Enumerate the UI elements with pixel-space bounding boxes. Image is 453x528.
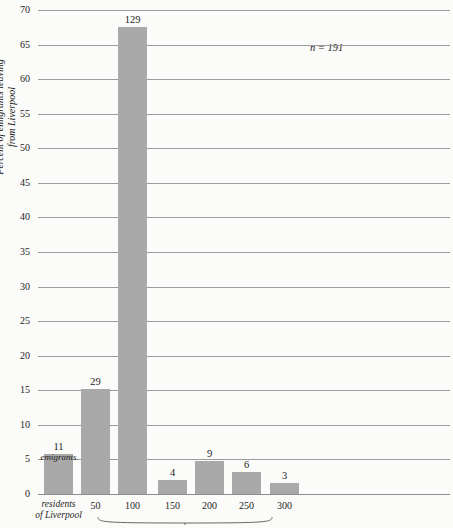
bar-value-label: 29 bbox=[69, 376, 122, 387]
bar-value-label: 6 bbox=[220, 459, 273, 470]
x-tick-label-100: 100 bbox=[111, 500, 155, 511]
bar-series: 11emigrants291294963 bbox=[38, 10, 450, 494]
y-tick-label: 50 bbox=[2, 143, 30, 153]
gridline-0 bbox=[38, 494, 450, 495]
y-tick-label: 60 bbox=[2, 74, 30, 84]
y-tick-label: 40 bbox=[2, 212, 30, 222]
x-axis-category-label: residents of Liverpool bbox=[19, 499, 99, 521]
bar bbox=[270, 483, 299, 494]
bar-value-label: 11 bbox=[32, 441, 85, 452]
bar-value-label: 9 bbox=[183, 448, 236, 459]
x-category-line2: of Liverpool bbox=[35, 510, 82, 520]
y-tick-label: 45 bbox=[2, 178, 30, 188]
x-tick-label-300: 300 bbox=[263, 500, 307, 511]
bar bbox=[118, 27, 147, 494]
y-tick-label: 15 bbox=[2, 385, 30, 395]
y-tick-label: 35 bbox=[2, 247, 30, 257]
y-tick-label: 20 bbox=[2, 351, 30, 361]
y-tick-label: 5 bbox=[2, 454, 30, 464]
range-bracket-icon bbox=[97, 516, 273, 525]
bar bbox=[81, 389, 110, 494]
bar-value-label: 129 bbox=[106, 14, 159, 25]
emigrants-bar-chart: Percent of emigrants leaving from Liverp… bbox=[0, 0, 453, 528]
y-tick-label: 30 bbox=[2, 282, 30, 292]
y-tick-label: 10 bbox=[2, 420, 30, 430]
x-category-line1: residents bbox=[42, 499, 76, 509]
bar-sublabel-emigrants: emigrants bbox=[30, 452, 87, 462]
bar bbox=[232, 472, 261, 494]
y-tick-label: 0 bbox=[2, 489, 30, 499]
bar-value-label: 3 bbox=[258, 470, 311, 481]
y-tick-label: 25 bbox=[2, 316, 30, 326]
y-tick-label: 55 bbox=[2, 109, 30, 119]
y-tick-label: 65 bbox=[2, 40, 30, 50]
plot-area: 0510152025303540455055606570 11emigrants… bbox=[38, 10, 450, 494]
bar-value-label: 4 bbox=[146, 467, 199, 478]
y-tick-label: 70 bbox=[2, 5, 30, 15]
bar bbox=[158, 480, 187, 494]
